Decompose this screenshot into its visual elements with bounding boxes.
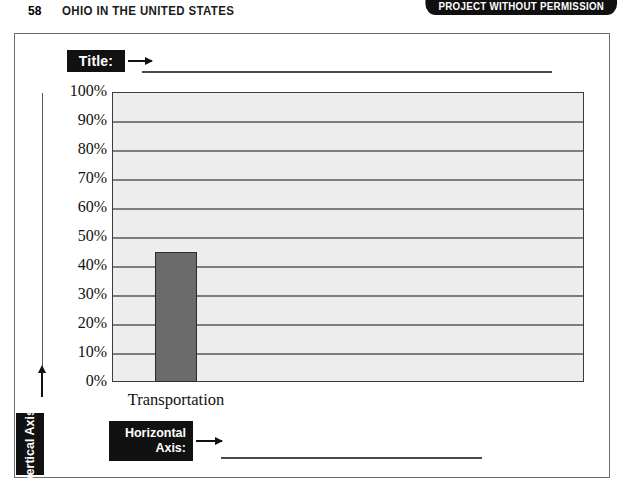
chart-gridline (113, 208, 583, 209)
chart-gridline (113, 237, 583, 238)
y-axis-tick-label: 50% (78, 227, 107, 245)
y-axis-tick-labels: 0%10%20%30%40%50%60%70%80%90%100% (52, 92, 107, 382)
chart-gridline (113, 179, 583, 180)
chart-gridline (113, 324, 583, 325)
y-axis-tick-label: 100% (70, 82, 107, 100)
chart-gridline (113, 150, 583, 151)
y-axis-tick-label: 80% (78, 140, 107, 158)
y-axis-tick-label: 10% (78, 343, 107, 361)
horizontal-axis-arrow-icon (196, 440, 222, 442)
chart-gridline (113, 266, 583, 267)
chart-gridline (113, 295, 583, 296)
y-axis-tick-label: 0% (86, 372, 107, 390)
chart-gridline (113, 353, 583, 354)
y-axis-tick-label: 90% (78, 111, 107, 129)
y-axis-tick-label: 60% (78, 198, 107, 216)
chart-gridline (113, 121, 583, 122)
permission-badge: PROJECT WITHOUT PERMISSION (425, 0, 617, 15)
title-callout-label: Title: (79, 53, 113, 69)
title-arrow-icon (128, 60, 152, 62)
y-axis-tick-label: 30% (78, 285, 107, 303)
page-number: 58 (28, 4, 41, 18)
y-axis-tick-label: 40% (78, 256, 107, 274)
chart-plot-area (112, 92, 584, 382)
page-header: 58 OHIO IN THE UNITED STATES PROJECT WIT… (0, 0, 627, 28)
vertical-axis-callout-label: Vertical Axis: (23, 405, 37, 483)
vertical-axis-callout-box: Vertical Axis: (16, 413, 44, 475)
vertical-axis-arrow-icon (41, 373, 43, 397)
horizontal-axis-write-in-line[interactable] (221, 457, 482, 459)
running-head-title: OHIO IN THE UNITED STATES (62, 4, 234, 18)
horizontal-axis-callout-box: Horizontal Axis: (109, 421, 193, 461)
vertical-axis-guide-line (42, 93, 43, 375)
horizontal-axis-callout-label-line1: Horizontal (109, 426, 186, 441)
horizontal-axis-callout-label-line2: Axis: (109, 441, 186, 456)
y-axis-tick-label: 20% (78, 314, 107, 332)
title-callout-box: Title: (67, 50, 125, 72)
title-write-in-line[interactable] (142, 71, 552, 73)
y-axis-tick-label: 70% (78, 169, 107, 187)
